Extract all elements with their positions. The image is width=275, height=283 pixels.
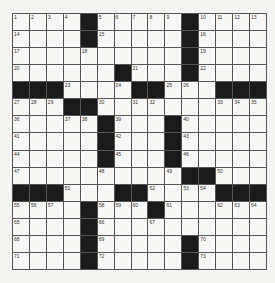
grid-cell[interactable]: 23 <box>64 82 80 98</box>
grid-cell[interactable] <box>115 48 131 64</box>
grid-cell[interactable]: 55 <box>13 202 29 218</box>
grid-cell[interactable]: 41 <box>13 133 29 149</box>
grid-cell[interactable] <box>199 82 215 98</box>
grid-cell[interactable]: 17 <box>13 48 29 64</box>
grid-cell[interactable] <box>47 219 63 235</box>
grid-cell[interactable]: 9 <box>165 14 181 30</box>
grid-cell[interactable] <box>216 48 232 64</box>
grid-cell[interactable] <box>98 48 114 64</box>
grid-cell[interactable] <box>132 219 148 235</box>
grid-cell[interactable]: 52 <box>148 185 164 201</box>
grid-cell[interactable]: 71 <box>13 253 29 269</box>
grid-cell[interactable] <box>165 48 181 64</box>
grid-cell[interactable]: 65 <box>13 219 29 235</box>
grid-cell[interactable] <box>30 133 46 149</box>
grid-cell[interactable] <box>216 253 232 269</box>
grid-cell[interactable] <box>182 99 198 115</box>
grid-cell[interactable]: 50 <box>216 168 232 184</box>
grid-cell[interactable]: 7 <box>132 14 148 30</box>
grid-cell[interactable]: 10 <box>199 14 215 30</box>
grid-cell[interactable] <box>81 82 97 98</box>
grid-cell[interactable]: 54 <box>199 185 215 201</box>
grid-cell[interactable] <box>199 219 215 235</box>
grid-cell[interactable]: 8 <box>148 14 164 30</box>
grid-cell[interactable]: 26 <box>182 82 198 98</box>
grid-cell[interactable] <box>216 65 232 81</box>
grid-cell[interactable]: 27 <box>13 99 29 115</box>
grid-cell[interactable] <box>115 253 131 269</box>
grid-cell[interactable] <box>81 151 97 167</box>
grid-cell[interactable] <box>233 219 249 235</box>
grid-cell[interactable] <box>233 48 249 64</box>
grid-cell[interactable] <box>115 168 131 184</box>
grid-cell[interactable]: 31 <box>132 99 148 115</box>
grid-cell[interactable]: 40 <box>182 116 198 132</box>
grid-cell[interactable] <box>47 48 63 64</box>
grid-cell[interactable] <box>216 151 232 167</box>
grid-cell[interactable] <box>233 151 249 167</box>
grid-cell[interactable] <box>250 116 266 132</box>
grid-cell[interactable] <box>47 65 63 81</box>
grid-cell[interactable]: 29 <box>47 99 63 115</box>
grid-cell[interactable]: 61 <box>165 202 181 218</box>
grid-cell[interactable] <box>250 48 266 64</box>
grid-cell[interactable]: 30 <box>98 99 114 115</box>
grid-cell[interactable] <box>199 99 215 115</box>
grid-cell[interactable]: 59 <box>115 202 131 218</box>
grid-cell[interactable] <box>165 219 181 235</box>
grid-cell[interactable] <box>132 48 148 64</box>
grid-cell[interactable]: 42 <box>115 133 131 149</box>
grid-cell[interactable] <box>233 116 249 132</box>
grid-cell[interactable] <box>30 65 46 81</box>
grid-cell[interactable] <box>81 185 97 201</box>
grid-cell[interactable]: 25 <box>165 82 181 98</box>
grid-cell[interactable] <box>233 236 249 252</box>
grid-cell[interactable]: 44 <box>13 151 29 167</box>
grid-cell[interactable]: 49 <box>165 168 181 184</box>
grid-cell[interactable] <box>148 253 164 269</box>
grid-cell[interactable] <box>182 202 198 218</box>
grid-cell[interactable] <box>30 253 46 269</box>
grid-cell[interactable] <box>64 168 80 184</box>
grid-cell[interactable]: 47 <box>13 168 29 184</box>
grid-cell[interactable] <box>165 185 181 201</box>
grid-cell[interactable] <box>98 185 114 201</box>
grid-cell[interactable] <box>132 168 148 184</box>
grid-cell[interactable] <box>47 31 63 47</box>
grid-cell[interactable]: 4 <box>64 14 80 30</box>
grid-cell[interactable]: 32 <box>148 99 164 115</box>
grid-cell[interactable]: 57 <box>47 202 63 218</box>
grid-cell[interactable] <box>47 116 63 132</box>
grid-cell[interactable]: 48 <box>98 168 114 184</box>
grid-cell[interactable]: 38 <box>81 116 97 132</box>
grid-cell[interactable] <box>148 65 164 81</box>
grid-cell[interactable] <box>132 151 148 167</box>
grid-cell[interactable]: 11 <box>216 14 232 30</box>
grid-cell[interactable] <box>47 253 63 269</box>
grid-cell[interactable] <box>250 236 266 252</box>
grid-cell[interactable]: 66 <box>98 219 114 235</box>
grid-cell[interactable]: 1 <box>13 14 29 30</box>
grid-cell[interactable]: 45 <box>115 151 131 167</box>
grid-cell[interactable]: 2 <box>30 14 46 30</box>
grid-cell[interactable] <box>148 236 164 252</box>
grid-cell[interactable] <box>216 219 232 235</box>
grid-cell[interactable]: 60 <box>132 202 148 218</box>
grid-cell[interactable]: 13 <box>250 14 266 30</box>
grid-cell[interactable] <box>148 133 164 149</box>
grid-cell[interactable] <box>250 65 266 81</box>
grid-cell[interactable] <box>30 168 46 184</box>
grid-cell[interactable] <box>30 48 46 64</box>
grid-cell[interactable] <box>64 31 80 47</box>
grid-cell[interactable]: 73 <box>199 253 215 269</box>
grid-cell[interactable] <box>165 99 181 115</box>
grid-cell[interactable]: 56 <box>30 202 46 218</box>
grid-cell[interactable] <box>98 82 114 98</box>
grid-cell[interactable] <box>30 31 46 47</box>
grid-cell[interactable] <box>148 31 164 47</box>
grid-cell[interactable]: 6 <box>115 14 131 30</box>
grid-cell[interactable]: 35 <box>250 99 266 115</box>
grid-cell[interactable]: 36 <box>13 116 29 132</box>
grid-cell[interactable] <box>250 151 266 167</box>
grid-cell[interactable]: 16 <box>199 31 215 47</box>
